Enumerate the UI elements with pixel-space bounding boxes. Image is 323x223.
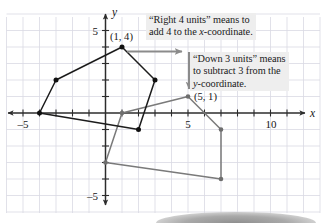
y-axis-name: y: [111, 6, 118, 19]
y-tick-label-5: 5: [93, 25, 99, 37]
y-tick-label-neg5: –5: [86, 190, 99, 202]
figure-page: –5 5 10 5 –5 x y: [0, 0, 323, 223]
image-vertex: [186, 94, 191, 99]
x-axis-name: x: [309, 107, 316, 119]
preimage-vertex: [153, 78, 158, 83]
translation-arrows: [127, 52, 189, 90]
axes: [8, 14, 305, 205]
x-tick-label-5: 5: [185, 118, 191, 130]
callout-down-line3-post: -coordinate.: [198, 78, 247, 89]
callout-down-line3: y-coordinate.: [193, 78, 286, 90]
x-tick-label-10: 10: [266, 118, 278, 130]
image-vertex: [103, 160, 108, 165]
callout-down-line1: “Down 3 units” means: [193, 53, 286, 65]
callout-down-3-units: “Down 3 units” means to subtract 3 from …: [190, 52, 289, 91]
image-vertex: [219, 177, 224, 182]
image-vertex: [219, 127, 224, 132]
preimage-vertex: [120, 45, 125, 50]
image-vertex: [120, 111, 125, 116]
preimage-polygon: [37, 45, 158, 133]
x-tick-label-neg5: –5: [17, 118, 30, 130]
preimage-vertex: [37, 111, 42, 116]
callout-right-line2-post: -coordinate.: [204, 26, 253, 37]
callout-right-line2-pre: add 4 to the: [149, 26, 199, 37]
callout-right-line1: “Right 4 units” means to: [149, 14, 253, 26]
preimage-vertex: [54, 78, 59, 83]
callout-down-line2: to subtract 3 from the: [193, 65, 286, 77]
preimage-vertex-label: (1, 4): [110, 31, 133, 42]
callout-right-line2: add 4 to the x-coordinate.: [149, 26, 253, 38]
callout-right-4-units: “Right 4 units” means to add 4 to the x-…: [146, 13, 256, 40]
image-polygon: [103, 94, 223, 181]
image-vertex-label: (5, 1): [194, 91, 217, 102]
preimage-vertex: [136, 127, 141, 132]
